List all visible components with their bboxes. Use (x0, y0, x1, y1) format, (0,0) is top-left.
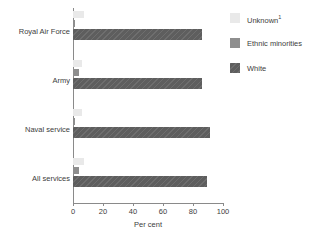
x-axis-tick-mark (133, 203, 134, 206)
category-label: All services (2, 174, 70, 183)
x-axis-tick-mark (193, 203, 194, 206)
plot-area (73, 8, 223, 204)
category-label: Royal Air Force (2, 27, 70, 36)
bar-ethnic-minorities (73, 20, 75, 27)
legend-swatch-white (230, 63, 240, 73)
y-axis-category-labels: Royal Air Force Army Naval service All s… (0, 0, 70, 236)
x-axis-tick-label: 0 (71, 207, 75, 216)
legend-label-unknown: Unknown1 (247, 14, 281, 25)
bar-white (73, 78, 202, 89)
x-axis-tick-mark (73, 203, 74, 206)
x-axis-tick-label: 20 (99, 207, 107, 216)
bar-unknown (73, 11, 84, 18)
legend-superscript-unknown: 1 (278, 14, 281, 20)
category-label: Naval service (2, 125, 70, 134)
category-label: Army (2, 76, 70, 85)
bar-white (73, 29, 202, 40)
x-axis-title: Per cent (73, 220, 223, 229)
legend-swatch-unknown (230, 13, 240, 23)
bar-ethnic-minorities (73, 167, 79, 174)
x-axis-tick-label: 60 (159, 207, 167, 216)
legend-swatch-ethnic-minorities (230, 38, 240, 48)
x-axis-tick-mark (103, 203, 104, 206)
bar-white (73, 127, 210, 138)
bar-unknown (73, 158, 84, 165)
bar-unknown (73, 60, 82, 67)
bar-unknown (73, 109, 82, 116)
x-axis-tick-mark (163, 203, 164, 206)
bar-ethnic-minorities (73, 118, 75, 125)
legend-label-white: White (247, 64, 266, 73)
x-axis-tick-label: 100 (217, 207, 230, 216)
bar-ethnic-minorities (73, 69, 79, 76)
x-axis-tick-mark (223, 203, 224, 206)
legend-label-ethnic-minorities: Ethnic minorities (247, 39, 302, 48)
bar-chart: Royal Air Force Army Naval service All s… (0, 0, 321, 236)
bar-white (73, 176, 207, 187)
x-axis-tick-label: 40 (129, 207, 137, 216)
x-axis-tick-label: 80 (189, 207, 197, 216)
